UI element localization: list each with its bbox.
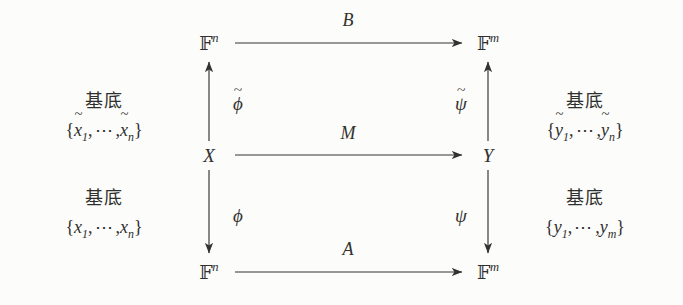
basis-annotation-right-upper: 基底 {~y1,⋯,~yn} [546,88,623,143]
basis-title: 基底 [65,185,142,211]
basis-first-var: x [74,215,82,241]
tilde-accent-icon: ~ [120,107,128,121]
phi-glyph: ϕ [233,205,243,226]
arrow-label-lower-left-vertical: ϕ [233,206,243,225]
ellipsis-glyph: ⋯ [93,121,116,141]
tilde-accent-icon: ~ [74,107,82,121]
var-letter: y [600,218,608,238]
var-letter: x [120,121,128,141]
node-middle-left: X [203,146,215,165]
psi-glyph: ψ [455,205,467,226]
close-brace: } [616,218,625,238]
node-bottom-right-exponent: m [490,260,499,274]
close-brace: } [134,218,143,238]
var-letter: x [74,218,82,238]
blackboard-f-glyph: 𝔽 [477,32,490,54]
tilde-accent-icon: ~ [457,83,465,98]
var-letter: x [120,218,128,238]
var-letter: y [555,121,563,141]
basis-set: {~x1,⋯,~xn} [65,118,142,144]
arrow-layer [0,0,683,305]
arrow-label-top-horizontal: B [343,11,354,29]
open-brace: { [545,218,554,238]
basis-title: 基底 [545,185,625,211]
node-top-left-exponent: n [212,31,218,45]
basis-set: {y1,⋯,ym} [545,215,625,241]
basis-first-var: y [554,215,562,241]
basis-last-var: x [120,215,128,241]
arrow-label-lower-right-vertical: ψ [455,206,467,225]
ellipsis-glyph: ⋯ [574,121,597,141]
arrow-label-bottom-horizontal: A [343,240,354,258]
open-brace: { [65,218,74,238]
node-top-right: 𝔽m [477,34,499,53]
node-bottom-right: 𝔽m [477,263,499,282]
basis-last-sub: m [608,227,617,241]
basis-last-var: y [600,215,608,241]
var-letter: x [74,121,82,141]
ellipsis-glyph: ⋯ [93,218,116,238]
ellipsis-glyph: ⋯ [572,218,595,238]
close-brace: } [615,121,624,141]
node-bottom-left-exponent: n [212,260,218,274]
basis-first-var: ~x [74,118,82,144]
open-brace: { [65,121,74,141]
close-brace: } [134,121,143,141]
var-letter: y [554,218,562,238]
commutative-diagram: 𝔽n 𝔽m X Y 𝔽n 𝔽m B M A ~ϕ ~ψ ϕ ψ 基底 {~x1,… [0,0,683,305]
blackboard-f-glyph: 𝔽 [199,261,212,283]
basis-annotation-left-upper: 基底 {~x1,⋯,~xn} [65,88,142,143]
psi-tilde-group: ~ψ [455,94,467,113]
tilde-accent-icon: ~ [234,83,242,98]
blackboard-f-glyph: 𝔽 [477,261,490,283]
basis-set: {x1,⋯,xn} [65,215,142,241]
arrow-label-middle-horizontal: M [341,124,356,142]
basis-annotation-left-lower: 基底 {x1,⋯,xn} [65,185,142,240]
open-brace: { [546,121,555,141]
arrow-label-upper-right-vertical: ~ψ [455,94,467,113]
basis-annotation-right-lower: 基底 {y1,⋯,ym} [545,185,625,240]
basis-last-var: ~y [601,118,609,144]
basis-last-var: ~x [120,118,128,144]
phi-tilde-group: ~ϕ [233,94,243,113]
tilde-accent-icon: ~ [601,107,609,121]
node-bottom-left: 𝔽n [199,263,218,282]
node-top-left: 𝔽n [199,34,218,53]
basis-set: {~y1,⋯,~yn} [546,118,623,144]
node-top-right-exponent: m [490,31,499,45]
blackboard-f-glyph: 𝔽 [199,32,212,54]
tilde-accent-icon: ~ [555,107,563,121]
arrow-label-upper-left-vertical: ~ϕ [233,94,243,113]
node-middle-right: Y [483,146,494,165]
var-letter: y [601,121,609,141]
basis-first-var: ~y [555,118,563,144]
